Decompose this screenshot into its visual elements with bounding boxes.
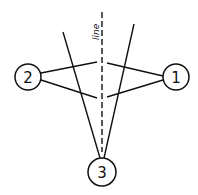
- lower-path-right: [107, 80, 163, 97]
- ray-right: [104, 24, 134, 158]
- upper-path-right: [107, 63, 163, 76]
- node-3: 3: [88, 158, 116, 186]
- node-2-label: 2: [23, 69, 33, 87]
- upper-path: [41, 62, 97, 73]
- node-1-label: 1: [171, 69, 181, 87]
- diagram: line 2 1 3: [0, 0, 198, 195]
- lower-path: [41, 80, 97, 98]
- node-3-label: 3: [97, 164, 107, 182]
- ray-left: [63, 32, 100, 158]
- node-1: 1: [163, 64, 189, 90]
- node-2: 2: [15, 64, 41, 90]
- line-label: line: [91, 23, 101, 40]
